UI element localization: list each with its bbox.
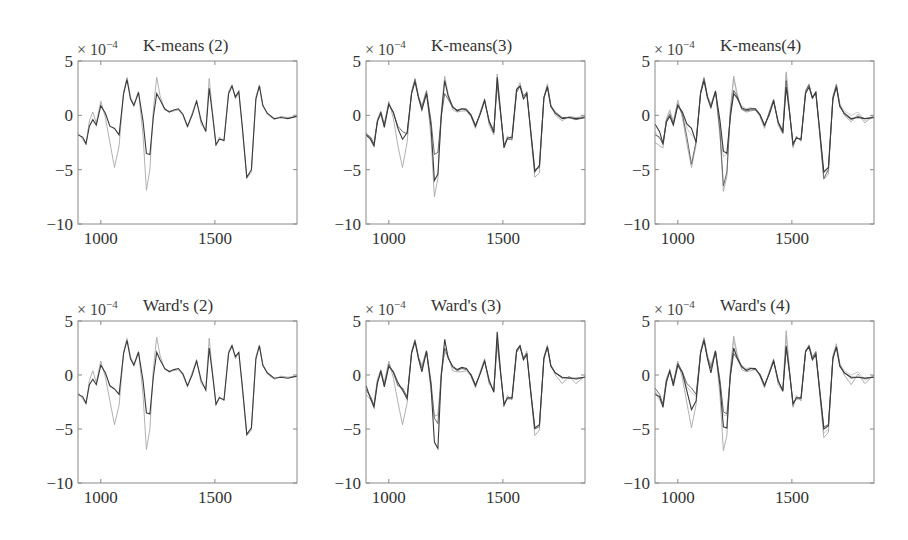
x-tick-label: 1500 — [775, 488, 809, 507]
x-tick-label: 1000 — [372, 488, 406, 507]
axis-multiplier: × 10−4 — [365, 38, 406, 58]
series-line-cluster-2 — [655, 78, 874, 186]
y-tick-label: −5 — [343, 161, 361, 180]
y-tick-label: −5 — [343, 420, 361, 439]
x-tick-label: 1500 — [775, 229, 809, 248]
series-line-cluster-3 — [366, 339, 585, 435]
series-line-cluster-2 — [366, 80, 585, 170]
x-tick-label: 1500 — [486, 488, 520, 507]
series-line-cluster-3 — [366, 74, 585, 197]
y-tick-label: −5 — [55, 161, 73, 180]
plot-frame — [78, 321, 297, 483]
y-tick-label: −10 — [46, 215, 73, 234]
panel-2: 50−5−1010001500× 10−4K-means(3) — [334, 36, 585, 248]
panel-1: 50−5−1010001500× 10−4K-means (2) — [46, 36, 297, 248]
y-tick-label: 0 — [65, 366, 74, 385]
panel-6: 50−5−1010001500× 10−4Ward's (4) — [623, 296, 874, 507]
axis-multiplier-exponent: −4 — [106, 298, 118, 310]
axis-multiplier-exponent: −4 — [106, 38, 118, 50]
plot-frame — [655, 321, 874, 483]
axis-multiplier-base: × 10 — [365, 41, 394, 58]
axis-multiplier-base: × 10 — [77, 301, 106, 318]
axis-multiplier: × 10−4 — [654, 298, 695, 318]
axis-multiplier: × 10−4 — [365, 298, 406, 318]
series-line-cluster-2 — [655, 339, 874, 426]
figure: 50−5−1010001500× 10−4K-means (2)50−5−101… — [0, 0, 908, 540]
panel-3: 50−5−1010001500× 10−4K-means(4) — [623, 36, 874, 248]
x-tick-label: 1000 — [661, 229, 695, 248]
axis-multiplier-base: × 10 — [365, 301, 394, 318]
axis-multiplier-base: × 10 — [77, 41, 106, 58]
y-tick-label: −10 — [623, 215, 650, 234]
chart-title: Ward's (3) — [431, 296, 501, 315]
axis-multiplier-exponent: −4 — [394, 38, 406, 50]
y-tick-label: −10 — [334, 215, 361, 234]
x-tick-label: 1000 — [661, 488, 695, 507]
y-tick-label: −10 — [623, 474, 650, 493]
chart-title: K-means (2) — [143, 36, 228, 55]
axis-multiplier-exponent: −4 — [683, 298, 695, 310]
y-tick-label: 5 — [65, 312, 74, 331]
axis-multiplier: × 10−4 — [77, 298, 118, 318]
chart-title: Ward's (2) — [143, 296, 213, 315]
chart-title: K-means(4) — [720, 36, 801, 55]
x-tick-label: 1000 — [84, 488, 118, 507]
series-line-cluster-1 — [655, 81, 874, 172]
axis-multiplier-base: × 10 — [654, 41, 683, 58]
plot-frame — [366, 321, 585, 483]
axis-multiplier-exponent: −4 — [683, 38, 695, 50]
axis-multiplier: × 10−4 — [77, 38, 118, 58]
y-tick-label: 5 — [353, 312, 362, 331]
axis-multiplier-exponent: −4 — [394, 298, 406, 310]
y-tick-label: −5 — [632, 161, 650, 180]
y-tick-label: −5 — [55, 420, 73, 439]
y-tick-label: 0 — [65, 106, 74, 125]
y-tick-label: −10 — [46, 474, 73, 493]
panel-5: 50−5−1010001500× 10−4Ward's (3) — [334, 296, 585, 507]
y-tick-label: −10 — [334, 474, 361, 493]
x-tick-label: 1000 — [372, 229, 406, 248]
x-tick-label: 1500 — [198, 488, 232, 507]
y-tick-label: −5 — [632, 420, 650, 439]
x-tick-label: 1500 — [486, 229, 520, 248]
panel-4: 50−5−1010001500× 10−4Ward's (2) — [46, 296, 297, 507]
chart-title: K-means(3) — [431, 36, 512, 55]
series-line-cluster-4 — [655, 74, 874, 173]
x-tick-label: 1500 — [198, 229, 232, 248]
y-tick-label: 0 — [353, 106, 362, 125]
y-tick-label: 5 — [353, 52, 362, 71]
y-tick-label: 0 — [353, 366, 362, 385]
y-tick-label: 0 — [642, 106, 651, 125]
series-line-cluster-3 — [655, 72, 874, 191]
y-tick-label: 0 — [642, 366, 651, 385]
series-line-cluster-2 — [78, 337, 297, 449]
chart-title: Ward's (4) — [720, 296, 790, 315]
series-line-cluster-2 — [78, 77, 297, 190]
x-tick-label: 1000 — [84, 229, 118, 248]
axis-multiplier-base: × 10 — [654, 301, 683, 318]
y-tick-label: 5 — [642, 52, 651, 71]
series-line-cluster-1 — [366, 332, 585, 449]
series-line-cluster-3 — [655, 331, 874, 451]
y-tick-label: 5 — [65, 52, 74, 71]
plot-frame — [78, 61, 297, 224]
axis-multiplier: × 10−4 — [654, 38, 695, 58]
y-tick-label: 5 — [642, 312, 651, 331]
plot-frame — [366, 61, 585, 224]
